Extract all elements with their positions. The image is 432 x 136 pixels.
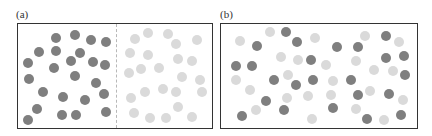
dark-particle [231, 61, 241, 71]
dark-particle [291, 80, 301, 90]
light-particle [326, 90, 336, 100]
light-particle [171, 87, 181, 97]
light-particle [195, 75, 205, 85]
dark-particle [32, 104, 42, 114]
dark-particle [34, 47, 44, 57]
dark-particle [381, 53, 391, 63]
light-particle [192, 35, 202, 45]
dark-particle [57, 110, 67, 120]
light-particle [235, 36, 245, 46]
dark-particle [23, 115, 33, 125]
dark-particle [66, 56, 76, 66]
light-particle [126, 93, 136, 103]
light-particle [154, 63, 164, 73]
light-particle [173, 102, 183, 112]
dark-particle [353, 90, 363, 100]
dark-particle [24, 74, 34, 84]
dark-particle [71, 110, 81, 120]
light-particle [130, 34, 140, 44]
dark-particle [49, 63, 59, 73]
light-particle [143, 28, 153, 38]
dark-particle [381, 31, 391, 41]
dark-particle [261, 96, 271, 106]
dark-particle [101, 37, 111, 47]
dark-particle [91, 78, 101, 88]
light-particle [125, 48, 135, 58]
dark-particle [86, 35, 96, 45]
light-particle [351, 104, 361, 114]
dark-particle [269, 75, 279, 85]
light-particle [388, 66, 398, 76]
dark-particle [292, 37, 302, 47]
dark-particle [101, 107, 111, 117]
dark-particle [252, 41, 262, 51]
dark-particle [75, 48, 85, 58]
light-particle [171, 39, 181, 49]
light-particle [307, 114, 317, 124]
light-particle [303, 91, 313, 101]
light-particle [379, 115, 389, 125]
light-particle [283, 70, 293, 80]
light-particle [163, 29, 173, 39]
dark-particle [399, 51, 409, 61]
light-particle [129, 108, 139, 118]
light-particle [140, 87, 150, 97]
light-particle [173, 54, 183, 64]
dark-particle [247, 61, 257, 71]
light-particle [251, 105, 261, 115]
light-particle [365, 86, 375, 96]
light-particle [265, 27, 275, 37]
dark-particle [237, 111, 247, 121]
panel-a-divider [116, 24, 117, 128]
light-particle [276, 52, 286, 62]
light-particle [197, 87, 207, 97]
light-particle [328, 76, 338, 86]
light-particle [124, 68, 134, 78]
light-particle [158, 84, 168, 94]
dark-particle [328, 103, 338, 113]
dark-particle [58, 92, 68, 102]
panel-b-label: (b) [220, 9, 233, 20]
panel-a-label: (a) [16, 9, 28, 20]
dark-particle [346, 75, 356, 85]
dark-particle [99, 89, 109, 99]
dark-particle [308, 75, 318, 85]
dark-particle [100, 60, 110, 70]
light-particle [143, 50, 153, 60]
light-particle [282, 93, 292, 103]
dark-particle [396, 110, 406, 120]
light-particle [293, 55, 303, 65]
light-particle [369, 65, 379, 75]
light-particle [231, 75, 241, 85]
dark-particle [70, 30, 80, 40]
dark-particle [400, 70, 410, 80]
light-particle [310, 33, 320, 43]
dark-particle [281, 27, 291, 37]
dark-particle [332, 42, 342, 52]
dark-particle [88, 57, 98, 67]
dark-particle [23, 58, 33, 68]
dark-particle [384, 89, 394, 99]
dark-particle [51, 33, 61, 43]
light-particle [398, 95, 408, 105]
light-particle [177, 72, 187, 82]
light-particle [187, 112, 197, 122]
light-particle [136, 64, 146, 74]
dark-particle [70, 71, 80, 81]
light-particle [321, 60, 331, 70]
light-particle [245, 85, 255, 95]
dark-particle [38, 87, 48, 97]
dark-particle [362, 114, 372, 124]
light-particle [360, 31, 370, 41]
dark-particle [353, 42, 363, 52]
light-particle [351, 56, 361, 66]
light-particle [394, 37, 404, 47]
dark-particle [51, 46, 61, 56]
light-particle [187, 56, 197, 66]
dark-particle [80, 95, 90, 105]
dark-particle [306, 55, 316, 65]
dark-particle [279, 105, 289, 115]
light-particle [145, 113, 155, 123]
light-particle [161, 113, 171, 123]
